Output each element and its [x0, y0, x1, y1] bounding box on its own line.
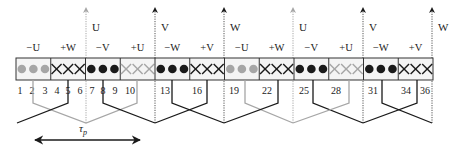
- conductor-out-dot-icon: [168, 65, 177, 74]
- winding-coil-line: [33, 80, 137, 123]
- phase-axis-label: U: [92, 21, 100, 33]
- slot-number: 7: [90, 85, 95, 96]
- slot-number: 25: [299, 85, 309, 96]
- conductor-out-dot-icon: [41, 65, 50, 74]
- conductor-out-dot-icon: [156, 65, 165, 74]
- slot-number: 1: [18, 85, 23, 96]
- slot-number: 31: [368, 85, 378, 96]
- conductor-out-dot-icon: [307, 65, 316, 74]
- phase-axis-label: W: [438, 21, 449, 33]
- three-phase-winding-diagram: UVWUVW −U+W−V+U−W+V−U+W−V+U−W+V 12345678…: [0, 0, 457, 150]
- slot-group-label: +V: [200, 42, 214, 53]
- slot-group-label: −U: [27, 42, 41, 53]
- slot-group-label: −V: [305, 42, 319, 53]
- slot-group: [17, 65, 49, 74]
- slot-group-label: +W: [269, 42, 285, 53]
- slot-number: 19: [229, 85, 239, 96]
- slot-number: 16: [192, 85, 202, 96]
- slot-number: 36: [420, 85, 430, 96]
- conductor-out-dot-icon: [319, 65, 328, 74]
- conductor-out-dot-icon: [29, 65, 38, 74]
- slot-group-label: −V: [96, 42, 110, 53]
- conductor-out-dot-icon: [365, 65, 374, 74]
- pole-pitch-indicator: τp: [35, 122, 140, 140]
- slot-number: 13: [160, 85, 170, 96]
- conductor-out-dot-icon: [377, 65, 386, 74]
- slot-group-label: +U: [339, 42, 353, 53]
- phase-axis-label: U: [299, 21, 307, 33]
- phase-axis-label: W: [230, 21, 241, 33]
- conductor-out-dot-icon: [226, 65, 235, 74]
- slot-group-label: +U: [131, 42, 145, 53]
- conductor-out-dot-icon: [17, 65, 26, 74]
- conductor-out-dot-icon: [87, 65, 96, 74]
- slot-number: 10: [125, 85, 135, 96]
- slot-group-label: −W: [164, 42, 180, 53]
- slot-group-label: −U: [235, 42, 249, 53]
- conductor-out-dot-icon: [180, 65, 189, 74]
- conductor-out-dot-icon: [388, 65, 397, 74]
- phase-axis-label: V: [161, 21, 169, 33]
- phase-axis-w: W: [432, 10, 449, 123]
- slot-number: 4: [55, 85, 60, 96]
- conductor-out-dot-icon: [238, 65, 247, 74]
- slot-number: 22: [262, 85, 272, 96]
- slot-group-label: +V: [409, 42, 423, 53]
- slot-group-label: −W: [373, 42, 389, 53]
- slot-number: 9: [113, 85, 118, 96]
- slot-number: 6: [78, 85, 83, 96]
- conductor-out-dot-icon: [249, 65, 258, 74]
- slot-group-label: +W: [60, 42, 76, 53]
- conductor-out-dot-icon: [99, 65, 108, 74]
- slot-number: 2: [30, 85, 35, 96]
- pole-pitch-label: τp: [79, 122, 87, 137]
- slot-bar: [16, 58, 433, 80]
- conductor-out-dot-icon: [110, 65, 119, 74]
- slot-number: 34: [401, 85, 411, 96]
- conductor-out-dot-icon: [295, 65, 304, 74]
- slot-number: 28: [331, 85, 341, 96]
- slot-number: 3: [43, 85, 48, 96]
- phase-axis-label: V: [369, 21, 377, 33]
